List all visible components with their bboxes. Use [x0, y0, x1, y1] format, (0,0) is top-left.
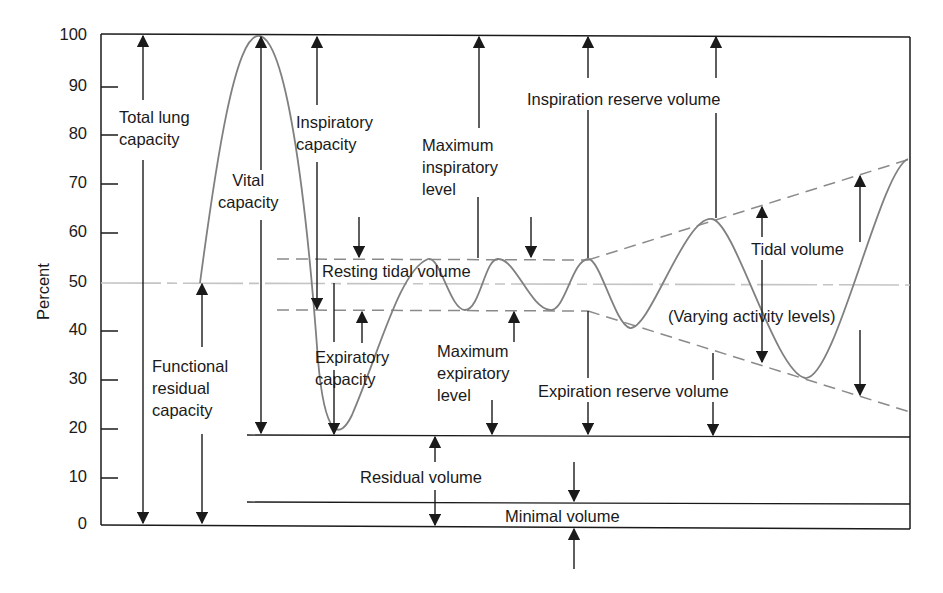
lung-volume-diagram	[0, 0, 943, 593]
y-tick-100: 100	[47, 25, 87, 44]
label-expiratory-capacity: Expiratory capacity	[315, 346, 389, 390]
label-residual-volume: Residual volume	[360, 466, 482, 488]
label-tidal-volume: Tidal volume	[751, 238, 844, 260]
y-tick-50: 50	[47, 272, 87, 291]
y-tick-30: 30	[47, 369, 87, 388]
y-tick-20: 20	[47, 418, 87, 437]
y-tick-0: 0	[47, 514, 87, 533]
y-tick-60: 60	[47, 222, 87, 241]
y-tick-90: 90	[47, 76, 87, 95]
y-tick-70: 70	[47, 173, 87, 192]
level-lines	[247, 435, 910, 504]
label-max-inspiratory-level: Maximum inspiratory level	[422, 134, 498, 200]
y-axis-label: Percent	[34, 263, 53, 320]
y-tick-80: 80	[47, 124, 87, 143]
label-varying-activity-levels: (Varying activity levels)	[668, 305, 836, 327]
label-vital-capacity: Vital capacity	[218, 169, 279, 213]
midline-50	[101, 283, 910, 285]
label-minimal-volume: Minimal volume	[505, 505, 620, 527]
residual-volume-line	[247, 435, 910, 437]
label-functional-residual-capacity: Functional residual capacity	[152, 355, 228, 421]
label-max-expiratory-level: Maximum expiratory level	[437, 340, 509, 406]
label-inspiration-reserve-volume: Inspiration reserve volume	[527, 88, 721, 110]
y-tick-10: 10	[47, 467, 87, 486]
arrows	[143, 36, 860, 569]
minimal-volume-line	[247, 502, 910, 504]
label-resting-tidal-volume: Resting tidal volume	[322, 260, 471, 282]
label-expiration-reserve-volume: Expiration reserve volume	[538, 380, 729, 402]
y-tick-40: 40	[47, 320, 87, 339]
label-inspiratory-capacity: Inspiratory capacity	[296, 111, 373, 155]
plot-frame	[101, 34, 910, 529]
label-total-lung-capacity: Total lung capacity	[119, 106, 190, 150]
